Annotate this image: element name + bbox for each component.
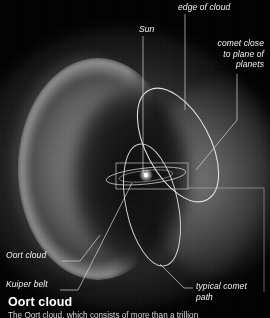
leader-typical-path (160, 264, 193, 288)
caption-body: The Oort cloud, which consists of more t… (8, 311, 264, 318)
label-edge-of-cloud: edge of cloud (178, 2, 230, 13)
leader-kuiper-belt (60, 183, 132, 290)
comet-orbit-typical (114, 139, 191, 271)
caption-title: Oort cloud (8, 295, 264, 309)
figure-canvas: Sun edge of cloud comet close to plane o… (0, 0, 270, 318)
caption-block: Oort cloud The Oort cloud, which consist… (8, 295, 264, 318)
sun-core (144, 173, 148, 177)
label-kuiper-belt: Kuiper belt (6, 279, 48, 290)
label-oort-cloud: Oort cloud (6, 250, 46, 261)
label-sun: Sun (139, 24, 154, 35)
label-comet-close-to-plane: comet close to plane of planets (218, 38, 264, 70)
leader-right-margin (188, 188, 264, 292)
